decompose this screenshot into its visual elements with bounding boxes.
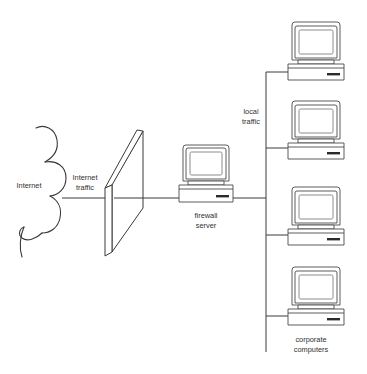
cloud-arc-lower-right xyxy=(42,196,61,233)
corporate-computer-3-drive-slot xyxy=(327,238,340,240)
corporate-computer-2-screen xyxy=(299,109,333,133)
local-traffic-label-line2: traffic xyxy=(242,117,260,126)
corporate-computers-label: corporate computers xyxy=(294,335,329,354)
cloud-arc-top xyxy=(36,127,57,163)
corporate-computer-4-screen xyxy=(299,275,333,299)
firewall-server-monitor-foot xyxy=(188,181,224,185)
corporate-computer-4-monitor-foot xyxy=(298,305,334,309)
corporate-computer-1-monitor-foot xyxy=(298,60,334,64)
corporate-computer-3-screen xyxy=(299,195,333,219)
firewall-wall-front-face xyxy=(105,185,112,256)
corporate-computer-3 xyxy=(288,187,344,245)
corporate-computer-2 xyxy=(288,101,344,159)
corporate-computer-2-base-unit xyxy=(288,143,344,159)
network-bus xyxy=(266,72,288,352)
corporate-computer-3-monitor-foot xyxy=(298,225,334,229)
corporate-computer-1 xyxy=(288,22,344,80)
firewall-server-label-line1: firewall xyxy=(195,211,218,220)
corporate-computer-2-drive-slot xyxy=(327,152,340,154)
firewall-server-drive-slot xyxy=(216,195,229,197)
cloud-arc-upper-right xyxy=(45,162,66,196)
corporate-computer-1-screen xyxy=(299,30,333,54)
firewall-server: firewall server xyxy=(179,145,233,230)
network-diagram-canvas: Internet Internet traffic xyxy=(0,0,367,374)
corporate-computer-4-base-unit xyxy=(288,309,344,325)
corporate-computers-label-line1: corporate xyxy=(295,335,326,344)
corporate-computer-4-drive-slot xyxy=(327,318,340,320)
corporate-computer-3-base-unit xyxy=(288,229,344,245)
internet-cloud: Internet xyxy=(16,127,66,258)
cloud-arc-bottom-tail xyxy=(20,227,24,257)
firewall-network-diagram: Internet Internet traffic xyxy=(0,0,367,374)
firewall-wall xyxy=(105,130,143,256)
corporate-computer-4 xyxy=(288,267,344,325)
corporate-computer-1-base-unit xyxy=(288,64,344,80)
corporate-computer-2-monitor-foot xyxy=(298,139,334,143)
firewall-server-screen xyxy=(190,152,222,175)
corporate-computer-1-drive-slot xyxy=(327,73,340,75)
internet-traffic-label-line2: traffic xyxy=(76,183,94,192)
corporate-computers-label-line2: computers xyxy=(294,345,329,354)
internet-label: Internet xyxy=(16,181,41,190)
firewall-server-label-line2: server xyxy=(196,221,217,230)
local-traffic-label-line1: local xyxy=(243,107,259,116)
internet-traffic-label-line1: Internet xyxy=(72,173,97,182)
local-traffic-link: local traffic xyxy=(233,107,266,198)
firewall-server-base-unit xyxy=(179,185,233,202)
